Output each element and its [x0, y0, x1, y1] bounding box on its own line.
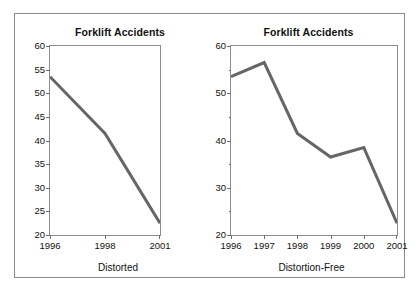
x-tick-mark [50, 235, 51, 239]
x-tick-mark [231, 235, 232, 239]
y-minor-tick-mark [229, 164, 232, 165]
x-tick-label: 1996 [220, 241, 241, 251]
chart-title-distortion-free: Forklift Accidents [211, 26, 406, 38]
figure-panel: Forklift Accidents 202530354045505560 19… [14, 13, 405, 278]
line-series-distortion-free [231, 46, 397, 235]
y-tick-mark [227, 188, 231, 189]
x-tick-label: 1998 [94, 241, 115, 251]
y-tick-label: 50 [34, 89, 45, 99]
y-tick-label: 25 [34, 207, 45, 217]
y-tick-mark [46, 141, 50, 142]
y-tick-label: 30 [215, 183, 226, 193]
y-tick-label: 60 [34, 41, 45, 51]
y-tick-mark [46, 164, 50, 165]
x-tick-label: 1998 [287, 241, 308, 251]
y-tick-mark [227, 141, 231, 142]
y-tick-label: 20 [215, 230, 226, 240]
y-tick-label: 50 [215, 89, 226, 99]
y-tick-mark [46, 70, 50, 71]
y-tick-label: 55 [34, 65, 45, 75]
plot-area-distorted: 202530354045505560 199619982001 [49, 45, 161, 236]
caption-distortion-free: Distortion-Free [211, 262, 406, 273]
y-tick-mark [46, 93, 50, 94]
x-tick-label: 1996 [39, 241, 60, 251]
y-minor-tick-mark [229, 70, 232, 71]
chart-title-distorted: Forklift Accidents [15, 26, 211, 38]
x-tick-label: 1999 [320, 241, 341, 251]
y-tick-label: 40 [34, 136, 45, 146]
y-tick-label: 45 [34, 112, 45, 122]
x-tick-label: 1997 [254, 241, 275, 251]
y-tick-label: 35 [34, 159, 45, 169]
y-tick-mark [46, 188, 50, 189]
x-tick-mark [264, 235, 265, 239]
line-series-distorted [50, 46, 160, 235]
y-minor-tick-mark [229, 117, 232, 118]
x-tick-mark [396, 235, 397, 239]
y-tick-label: 40 [215, 136, 226, 146]
y-tick-label: 30 [34, 183, 45, 193]
y-tick-mark [46, 211, 50, 212]
y-tick-label: 20 [34, 230, 45, 240]
y-tick-mark [227, 46, 231, 47]
y-tick-mark [46, 117, 50, 118]
x-tick-label: 2001 [149, 241, 170, 251]
x-tick-mark [331, 235, 332, 239]
plot-area-distortion-free: 2030405060 199619971998199920002001 [230, 45, 398, 236]
x-tick-label: 2001 [386, 241, 407, 251]
chart-distortion-free: Forklift Accidents 2030405060 1996199719… [211, 14, 406, 277]
x-tick-mark [364, 235, 365, 239]
x-tick-mark [105, 235, 106, 239]
chart-distorted: Forklift Accidents 202530354045505560 19… [15, 14, 211, 277]
y-tick-mark [227, 93, 231, 94]
y-minor-tick-mark [229, 211, 232, 212]
caption-distorted: Distorted [15, 262, 211, 273]
x-tick-mark [159, 235, 160, 239]
x-tick-label: 2000 [353, 241, 374, 251]
y-tick-mark [46, 46, 50, 47]
x-tick-mark [297, 235, 298, 239]
y-tick-label: 60 [215, 41, 226, 51]
